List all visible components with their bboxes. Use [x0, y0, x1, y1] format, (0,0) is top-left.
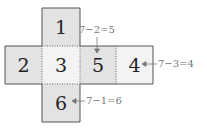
top-annotation: 7−2=5: [79, 24, 115, 35]
bottom-annotation: 7−1=6: [86, 95, 122, 106]
right-annotation: 7−3=4: [158, 58, 194, 69]
arrow-icons: [72, 37, 157, 104]
